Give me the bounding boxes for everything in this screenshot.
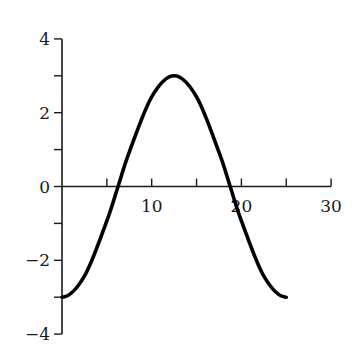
y-axis: −4−2024 — [25, 29, 62, 344]
x-tick-label: 10 — [141, 196, 163, 216]
y-tick-label: −2 — [25, 250, 50, 270]
y-tick-label: 2 — [39, 103, 50, 123]
y-tick-label: −4 — [25, 324, 50, 344]
x-tick-label: 30 — [320, 196, 342, 216]
line-chart: −4−2024 102030 — [0, 0, 361, 354]
y-tick-label: 0 — [39, 177, 50, 197]
y-tick-label: 4 — [39, 29, 50, 49]
x-axis: 102030 — [62, 179, 342, 216]
